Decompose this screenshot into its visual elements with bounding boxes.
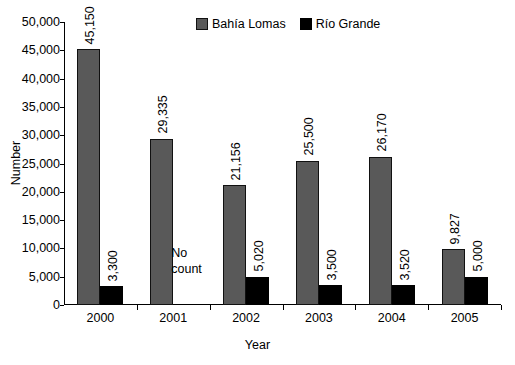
bar-value-label: 25,500	[302, 117, 315, 155]
y-axis-tick-mark	[60, 50, 64, 51]
bar-2004-series-1	[392, 285, 415, 305]
bar-chart: Bahía Lomas Río Grande Number 05,00010,0…	[0, 0, 515, 365]
bar-value-label: 29,335	[157, 96, 170, 134]
x-axis-title: Year	[0, 338, 515, 352]
y-axis-tick-mark	[60, 220, 64, 221]
x-axis-tick-label: 2005	[451, 312, 479, 325]
bar-value-label: 5,000	[471, 240, 484, 271]
bar-value-label: 9,827	[448, 213, 461, 244]
y-axis-tick-label: 30,000	[22, 129, 60, 142]
y-axis-tick-mark	[60, 22, 64, 23]
y-axis-tick-mark	[60, 135, 64, 136]
bar-2001-series-0	[150, 139, 173, 305]
y-axis-tick-label: 45,000	[22, 44, 60, 57]
y-axis-tick-label: 50,000	[22, 16, 60, 29]
bar-2004-series-0	[369, 157, 392, 305]
no-count-annotation: No count	[171, 245, 202, 277]
y-axis-tick-label: 15,000	[22, 214, 60, 227]
y-axis-tick-labels: 05,00010,00015,00020,00025,00030,00035,0…	[8, 22, 60, 305]
bar-value-label: 45,150	[84, 6, 97, 44]
y-axis-tick-label: 20,000	[22, 186, 60, 199]
x-axis-tick-label: 2002	[232, 312, 260, 325]
y-axis-tick-label: 10,000	[22, 242, 60, 255]
x-axis-tick-mark	[501, 305, 502, 310]
x-axis-tick-mark	[428, 305, 429, 310]
bar-2002-series-1	[246, 277, 269, 305]
bar-2003-series-1	[319, 285, 342, 305]
bar-value-label: 5,020	[253, 240, 266, 271]
y-axis-tick-label: 40,000	[22, 72, 60, 85]
bar-2005-series-1	[465, 277, 488, 305]
y-axis-tick-mark	[60, 192, 64, 193]
bar-value-label: 3,520	[398, 249, 411, 280]
bar-value-label: 26,170	[375, 114, 388, 152]
y-axis-tick-mark	[60, 277, 64, 278]
x-axis-tick-mark	[355, 305, 356, 310]
bar-2000-series-0	[77, 49, 100, 305]
bar-value-label: 3,300	[107, 250, 120, 281]
bar-2003-series-0	[296, 161, 319, 305]
y-axis-tick-label: 35,000	[22, 101, 60, 114]
x-axis-tick-mark	[283, 305, 284, 310]
bar-value-label: 21,156	[230, 142, 243, 180]
y-axis-tick-mark	[60, 164, 64, 165]
x-axis-tick-label: 2001	[159, 312, 187, 325]
y-axis-tick-label: 5,000	[29, 270, 60, 283]
y-axis-tick-mark	[60, 107, 64, 108]
x-axis-tick-mark	[210, 305, 211, 310]
y-axis-line	[64, 22, 65, 305]
bar-2000-series-1	[100, 286, 123, 305]
bar-value-label: 3,500	[325, 249, 338, 280]
y-axis-tick-label: 0	[53, 299, 60, 312]
x-axis-tick-mark	[137, 305, 138, 310]
bar-2002-series-0	[223, 185, 246, 305]
x-axis-tick-label: 2000	[87, 312, 115, 325]
x-axis-tick-label: 2004	[378, 312, 406, 325]
y-axis-tick-mark	[60, 79, 64, 80]
plot-area: 45,1503,30029,335No count21,1565,02025,5…	[64, 22, 501, 305]
y-axis-tick-label: 25,000	[22, 157, 60, 170]
bar-2005-series-0	[442, 249, 465, 305]
y-axis-tick-mark	[60, 305, 64, 306]
x-axis-tick-label: 2003	[305, 312, 333, 325]
y-axis-tick-mark	[60, 248, 64, 249]
